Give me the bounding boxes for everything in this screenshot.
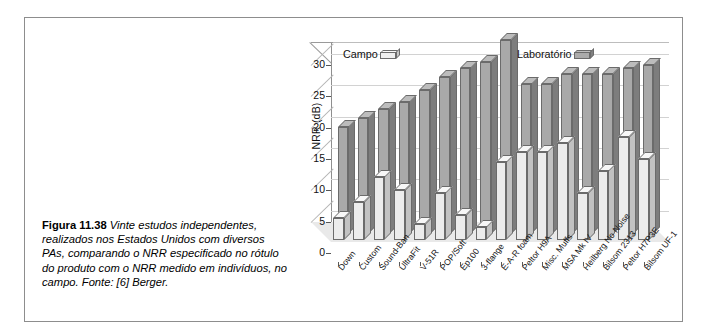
bar-front-face bbox=[435, 193, 446, 240]
legend-swatch-laboratorio-icon bbox=[574, 50, 594, 59]
bar-side-face bbox=[384, 170, 391, 240]
y-axis-tick-label: 15 bbox=[277, 152, 325, 164]
bar-campo bbox=[516, 152, 527, 240]
bar-front-face bbox=[557, 143, 568, 240]
bar-laboratorio bbox=[480, 62, 491, 234]
bar-campo bbox=[476, 227, 487, 240]
bar-front-face bbox=[480, 62, 491, 234]
bar-front-face bbox=[333, 218, 344, 240]
bar-front-face bbox=[537, 152, 548, 240]
caption-label: Figura 11.38 bbox=[42, 219, 107, 231]
bar-front-face bbox=[414, 224, 425, 240]
y-axis-tick-label: 30 bbox=[277, 58, 325, 70]
y-axis-tick-mark bbox=[326, 222, 331, 223]
bar-campo bbox=[374, 177, 385, 240]
legend-swatch-campo-icon bbox=[380, 50, 400, 59]
bar-laboratorio bbox=[419, 90, 430, 234]
bar-side-face bbox=[588, 186, 595, 240]
y-axis-tick-label: 10 bbox=[277, 183, 325, 195]
legend-label-campo: Campo bbox=[343, 48, 378, 60]
bar-campo bbox=[537, 152, 548, 240]
bar-side-face bbox=[506, 155, 513, 240]
bar-side-face bbox=[527, 145, 534, 240]
bar-side-face bbox=[364, 195, 371, 240]
bar-campo bbox=[435, 193, 446, 240]
bar-front-face bbox=[496, 162, 507, 240]
bar-front-face bbox=[638, 159, 649, 240]
y-axis-tick-mark bbox=[326, 253, 331, 254]
y-axis-tick-mark bbox=[326, 159, 331, 160]
y-axis-tick-label: 0 bbox=[277, 246, 325, 258]
bar-front-face bbox=[419, 90, 430, 234]
bar-campo bbox=[496, 162, 507, 240]
bar-front-face bbox=[598, 171, 609, 240]
figure-frame: Figura 11.38 Vinte estudos independentes… bbox=[24, 17, 683, 322]
chart: NRR (dB) 051015202530 DownCustomSound-Ba… bbox=[277, 24, 677, 319]
bar-front-face bbox=[374, 177, 385, 240]
bar-campo bbox=[333, 218, 344, 240]
legend-item-campo: Campo bbox=[343, 48, 400, 60]
bar-front-face bbox=[516, 152, 527, 240]
bar-campo bbox=[414, 224, 425, 240]
bar-campo bbox=[598, 171, 609, 240]
bar-side-face bbox=[629, 130, 636, 240]
bar-front-face bbox=[455, 215, 466, 240]
bar-campo bbox=[557, 143, 568, 240]
y-axis-tick-label: 25 bbox=[277, 89, 325, 101]
bar-front-face bbox=[476, 227, 487, 240]
bar-side-face bbox=[568, 136, 575, 240]
legend-label-laboratorio: Laboratório bbox=[517, 48, 572, 60]
bar-side-face bbox=[405, 183, 412, 240]
bar-front-face bbox=[353, 202, 364, 240]
bar-campo bbox=[455, 215, 466, 240]
bar-campo bbox=[638, 159, 649, 240]
y-axis-tick-mark bbox=[326, 190, 331, 191]
bar-side-face bbox=[547, 145, 554, 240]
legend-item-laboratorio: Laboratório bbox=[517, 48, 594, 60]
y-axis-tick-mark bbox=[326, 96, 331, 97]
y-axis-tick-label: 5 bbox=[277, 215, 325, 227]
y-axis-tick-mark bbox=[326, 128, 331, 129]
figure-caption: Figura 11.38 Vinte estudos independentes… bbox=[42, 218, 290, 289]
y-axis-tick-label: 20 bbox=[277, 121, 325, 133]
bar-side-face bbox=[445, 186, 452, 240]
bar-campo bbox=[353, 202, 364, 240]
y-axis-tick-mark bbox=[326, 65, 331, 66]
